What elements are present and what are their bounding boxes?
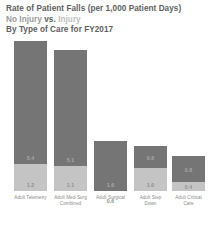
bar-segment-injury[interactable]: 0.4 xyxy=(172,182,205,191)
bar-group-adult-surgical[interactable]: 1.6 0.6 Adult Surgical xyxy=(94,141,127,191)
bar-segment-no-injury[interactable]: 1.6 xyxy=(94,141,127,191)
subtitle-injury-text: Injury xyxy=(58,15,81,24)
category-label-line1: Adult Telemetry xyxy=(9,195,52,201)
bar-segment-no-injury[interactable]: 0.6 xyxy=(134,146,167,168)
bar-value-no-injury: 1.6 xyxy=(94,182,127,188)
bar-value-no-injury: 0.6 xyxy=(134,155,167,161)
bar-segment-injury[interactable]: 1.1 xyxy=(54,166,87,191)
category-label-line2: Down xyxy=(129,201,172,207)
category-label-adult-step-down: Adult Step Down xyxy=(129,195,172,207)
bar-segment-no-injury[interactable]: 0.8 xyxy=(172,156,205,182)
category-label-adult-telemetry: Adult Telemetry xyxy=(9,195,52,201)
category-label-line1: Adult Med-Surg xyxy=(49,195,92,201)
bar-segment-no-injury[interactable]: 5.1 xyxy=(54,50,87,166)
bar-segment-no-injury[interactable]: 5.4 xyxy=(14,41,47,164)
bar-group-adult-critical-care[interactable]: 0.8 0.4 Adult Critical Care xyxy=(172,156,205,191)
bar-segment-injury[interactable]: 1.2 xyxy=(14,164,47,191)
bar-value-no-injury: 0.8 xyxy=(172,167,205,173)
bar-value-injury: 0.4 xyxy=(172,184,205,190)
chart-title: Rate of Patient Falls (per 1,000 Patient… xyxy=(6,4,207,15)
bar-value-injury: 1.1 xyxy=(54,182,87,188)
bar-group-adult-telemetry[interactable]: 5.4 1.2 Adult Telemetry xyxy=(14,41,47,191)
subtitle-no-injury-text: No Injury xyxy=(6,15,42,24)
chart-subtitle: No Injury vs. Injury xyxy=(6,15,207,26)
bar-segment-injury[interactable]: 1.0 xyxy=(134,168,167,191)
bar-value-injury: 1.2 xyxy=(14,182,47,188)
category-label-adult-med-surg-combined: Adult Med-Surg Combined xyxy=(49,195,92,207)
bar-value-no-injury: 5.4 xyxy=(14,155,47,161)
category-label-adult-surgical: Adult Surgical xyxy=(89,195,132,201)
category-label-line2: Care xyxy=(167,201,210,207)
bar-group-adult-step-down[interactable]: 0.6 1.0 Adult Step Down xyxy=(134,146,167,191)
category-label-line1: Adult Surgical xyxy=(89,195,132,201)
bar-value-injury: 1.0 xyxy=(134,182,167,188)
chart-title-block: Rate of Patient Falls (per 1,000 Patient… xyxy=(4,4,207,36)
category-label-line2: Combined xyxy=(49,201,92,207)
patient-falls-chart-card: Rate of Patient Falls (per 1,000 Patient… xyxy=(0,0,211,248)
bar-group-adult-med-surg-combined[interactable]: 5.1 1.1 Adult Med-Surg Combined xyxy=(54,50,87,191)
category-label-adult-critical-care: Adult Critical Care xyxy=(167,195,210,207)
bar-value-no-injury: 5.1 xyxy=(54,157,87,163)
chart-plot-area: 5.4 1.2 Adult Telemetry 5.1 1.1 Adult Me… xyxy=(4,41,207,227)
chart-subtitle-care-type: By Type of Care for FY2017 xyxy=(6,25,207,36)
subtitle-vs-text: vs. xyxy=(42,15,58,24)
